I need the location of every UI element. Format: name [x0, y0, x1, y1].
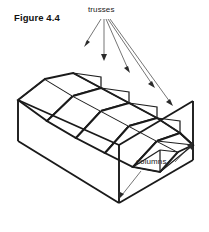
trusses-arrowhead-3 [124, 66, 130, 73]
figure-number-label: Figure 4.4 [14, 12, 60, 23]
trusses-arrowhead-1 [84, 40, 90, 47]
figure-canvas: Figure 4.4 trusses columns [0, 0, 209, 232]
trusses-callout-label: trusses [88, 5, 115, 14]
building-line-drawing [0, 0, 209, 232]
trusses-leader-4 [108, 19, 152, 84]
trusses-arrowhead-2 [101, 54, 107, 61]
columns-callout-label: columns [136, 157, 167, 166]
trusses-leader-1 [86, 19, 101, 43]
